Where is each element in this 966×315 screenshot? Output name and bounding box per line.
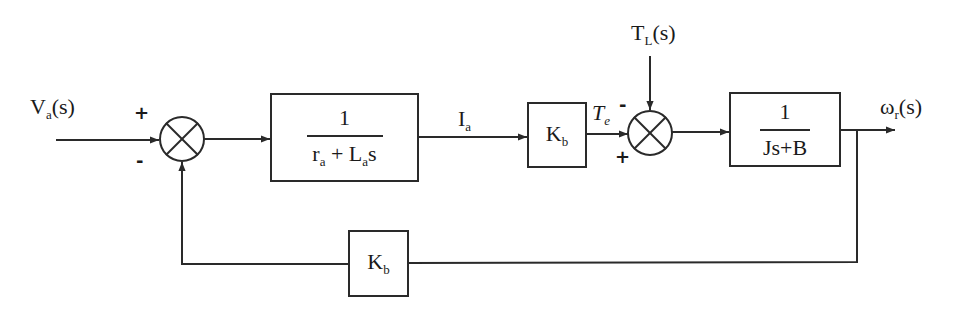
sum2-minus-sign: -: [619, 96, 626, 114]
armature-current-label: Ia: [458, 108, 471, 133]
label-arg: (s): [52, 94, 75, 119]
label-sub: b: [383, 262, 390, 277]
numerator: 1: [335, 105, 354, 135]
label-main: T: [592, 100, 604, 125]
denominator: Js+B: [763, 131, 807, 161]
label-sub: b: [562, 134, 569, 149]
electric-torque-label: Te: [592, 102, 610, 127]
denominator: ra + Las: [312, 137, 376, 170]
label-main: K: [546, 121, 562, 146]
numerator: 1: [776, 99, 795, 129]
label-main: K: [367, 249, 383, 274]
label-main: ω: [880, 94, 894, 119]
den-r: r: [312, 141, 319, 166]
label-arg: (s): [652, 20, 675, 45]
label-arg: (s): [899, 94, 922, 119]
mechanical-fraction: 1 Js+B: [760, 99, 810, 161]
feedback-kb-label: Kb: [367, 251, 389, 276]
sum2-plus-sign: +: [615, 148, 630, 166]
sum1-plus-sign: +: [134, 104, 149, 122]
armature-transfer-block: 1 ra + Las: [270, 93, 419, 182]
output-speed-label: ωr(s): [880, 96, 922, 121]
label-main: T: [631, 20, 644, 45]
label-sub: e: [604, 113, 610, 128]
input-voltage-label: Va(s): [30, 96, 75, 121]
torque-constant-block: Kb: [527, 102, 587, 168]
feedback-kb-block: Kb: [348, 230, 409, 297]
den-s: s: [368, 141, 377, 166]
label-sub: a: [465, 119, 471, 134]
load-torque-label: TL(s): [631, 22, 676, 47]
kb-label: Kb: [546, 123, 568, 148]
mechanical-transfer-block: 1 Js+B: [729, 92, 841, 167]
armature-fraction: 1 ra + Las: [307, 105, 383, 170]
den-l: + L: [325, 141, 362, 166]
label-main: V: [30, 94, 46, 119]
sum1-minus-sign: -: [136, 152, 143, 170]
